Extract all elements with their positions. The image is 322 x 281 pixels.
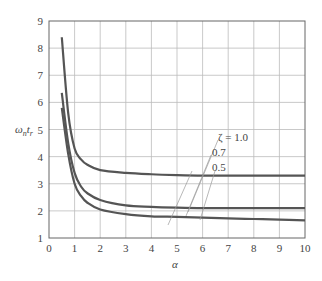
annotation-zeta-05: 0.5 xyxy=(212,161,226,173)
y-tick-label: 2 xyxy=(38,205,44,217)
x-tick-label: 5 xyxy=(174,242,180,254)
x-tick-label: 0 xyxy=(46,242,52,254)
curve-zeta-2 xyxy=(62,108,305,221)
y-tick-label: 5 xyxy=(38,124,44,136)
x-tick-label: 4 xyxy=(149,242,155,254)
x-axis-ticks: 012345678910 xyxy=(46,242,311,254)
annotation-zeta-1: ζ = 1.0 xyxy=(218,131,249,144)
curve-zeta-0 xyxy=(62,37,305,175)
curves xyxy=(62,37,305,220)
x-tick-label: 3 xyxy=(123,242,129,254)
x-tick-label: 2 xyxy=(97,242,103,254)
annotation-zeta-07: 0.7 xyxy=(212,146,226,158)
y-tick-label: 4 xyxy=(38,151,44,163)
y-axis-ticks: 123456789 xyxy=(38,15,44,244)
y-tick-label: 3 xyxy=(38,178,44,190)
leader-line-zeta-07 xyxy=(186,155,211,216)
x-tick-label: 7 xyxy=(225,242,231,254)
y-tick-label: 9 xyxy=(38,15,44,27)
y-label-sub-r: r xyxy=(30,129,34,138)
y-tick-label: 1 xyxy=(38,232,44,244)
x-tick-label: 10 xyxy=(300,242,312,254)
step-response-rise-time-chart: 012345678910 123456789 ζ = 1.0 0.7 0.5 ω… xyxy=(0,0,322,281)
y-axis-label: ωntr xyxy=(15,123,34,138)
x-tick-label: 9 xyxy=(277,242,283,254)
y-tick-label: 6 xyxy=(38,96,44,108)
x-tick-label: 8 xyxy=(251,242,257,254)
y-tick-label: 7 xyxy=(38,69,44,81)
x-axis-label: α xyxy=(172,258,178,270)
y-tick-label: 8 xyxy=(38,42,44,54)
x-tick-label: 6 xyxy=(200,242,206,254)
x-tick-label: 1 xyxy=(72,242,78,254)
